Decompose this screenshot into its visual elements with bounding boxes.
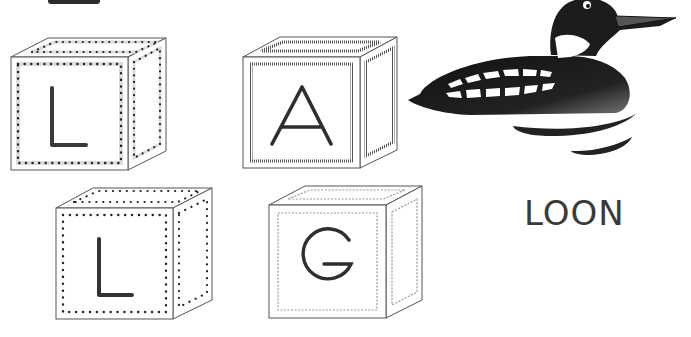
letter-block-4 <box>269 186 422 318</box>
word-label: LOON <box>524 193 625 233</box>
letter-block-3 <box>56 188 212 319</box>
letter-block-2 <box>243 37 397 168</box>
letter-block-1 <box>11 38 166 170</box>
loon-icon <box>408 0 676 155</box>
